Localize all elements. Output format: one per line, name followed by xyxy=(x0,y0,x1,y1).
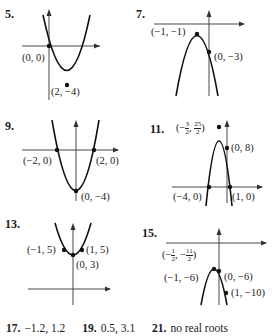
fraction: 112 xyxy=(186,248,193,263)
label-part: (− xyxy=(176,122,185,133)
point-label: (0, −6) xyxy=(224,271,253,282)
parabola-plot xyxy=(0,100,136,205)
point-label: (−4, 0) xyxy=(173,191,202,202)
label-part: ) xyxy=(193,249,197,260)
problem-11-graph: 11. (−32, 252) (0, 8) (−4, 0) (1, 0) xyxy=(136,100,273,205)
vertex-label: (−32, 252) xyxy=(176,121,205,136)
answer-text: −1.2, 1.2 xyxy=(24,322,65,334)
point-label: (2, 0) xyxy=(96,155,119,166)
parabola-plot xyxy=(136,0,273,100)
label-part: , − xyxy=(175,249,186,260)
point-label: (1, 0) xyxy=(232,191,255,202)
label-part: (− xyxy=(162,249,171,260)
parabola-plot xyxy=(0,0,136,100)
problem-9-graph: 9. (−2, 0) (2, 0) (0, −4) xyxy=(0,100,136,205)
point-label: (0, 8) xyxy=(231,142,254,153)
point-label: (−2, 0) xyxy=(23,155,52,166)
answer-17: 17.−1.2, 1.2 xyxy=(6,322,65,334)
problem-5-graph: 5. (0, 0) (2, −4) xyxy=(0,0,136,100)
point-label: (1, 5) xyxy=(86,244,109,255)
point-label: (−1, 5) xyxy=(27,244,56,255)
parabola-plot xyxy=(0,205,136,305)
denominator: 2 xyxy=(186,256,193,263)
problem-15-graph: 15. (−12, −112) (−1, −6) (0, −6) (1, −10… xyxy=(136,205,273,305)
answer-number: 17. xyxy=(6,322,20,334)
point-label: (−1, −6) xyxy=(164,272,199,283)
answer-row: 17.−1.2, 1.2 19.0.5, 3.1 21.no real root… xyxy=(6,322,228,334)
problem-7-graph: 7. (−1, −1) (0, −3) xyxy=(136,0,273,100)
vertex-label: (−12, −112) xyxy=(162,248,196,263)
answer-text: no real roots xyxy=(170,322,227,334)
point-label: (0, 0) xyxy=(22,52,45,63)
point-label: (1, −10) xyxy=(231,287,265,298)
label-part: ) xyxy=(201,122,205,133)
point-label: (0, 3) xyxy=(76,259,99,270)
answer-number: 19. xyxy=(82,322,96,334)
answer-number: 21. xyxy=(152,322,166,334)
problem-13-graph: 13. (−1, 5) (1, 5) (0, 3) xyxy=(0,205,136,305)
point-label: (2, −4) xyxy=(51,86,80,97)
answer-text: 0.5, 3.1 xyxy=(101,322,136,334)
point-label: (0, −4) xyxy=(81,191,110,202)
answer-21: 21.no real roots xyxy=(152,322,228,334)
point-label: (−1, −1) xyxy=(151,26,186,37)
point-label: (0, −3) xyxy=(214,51,243,62)
answer-19: 19.0.5, 3.1 xyxy=(82,322,135,334)
